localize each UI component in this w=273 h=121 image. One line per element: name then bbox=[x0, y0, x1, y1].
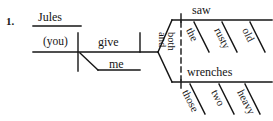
exercise-number: 1. bbox=[6, 16, 14, 27]
direct-object-upper-label: saw bbox=[192, 4, 211, 16]
conjunction-and-label: and bbox=[157, 32, 168, 47]
subject-label: (you) bbox=[43, 36, 68, 48]
vocative-label: Jules bbox=[38, 11, 62, 23]
fork-lower-arm bbox=[158, 52, 172, 82]
sentence-diagram: 1. Jules (you) give me both and saw the … bbox=[0, 0, 273, 121]
indirect-object-slant bbox=[80, 53, 98, 70]
indirect-object-label: me bbox=[109, 58, 124, 70]
verb-label: give bbox=[98, 36, 119, 48]
direct-object-lower-label: wrenches bbox=[187, 66, 232, 78]
